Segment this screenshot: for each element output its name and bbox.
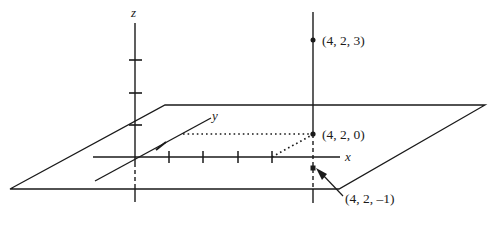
point-label-4-2-3: (4, 2, 3) bbox=[322, 33, 365, 48]
point-marker-4-2-3 bbox=[311, 38, 316, 43]
xy-plane-parallelogram bbox=[10, 105, 485, 189]
point-marker-4-2-neg1 bbox=[311, 166, 316, 171]
figure-container: x y z (4, 2, 3) (4, 2, 0) (4, 2, –1) bbox=[0, 0, 492, 227]
point-marker-4-2-0 bbox=[310, 131, 315, 136]
coordinate-system-figure: x y z (4, 2, 3) (4, 2, 0) (4, 2, –1) bbox=[0, 0, 492, 227]
callout-arrow-shaft bbox=[322, 174, 343, 196]
point-label-4-2-neg1: (4, 2, –1) bbox=[345, 191, 395, 206]
point-label-4-2-0: (4, 2, 0) bbox=[322, 127, 365, 142]
y-axis-tick-1 bbox=[156, 142, 166, 150]
dotted-diagonal-guide bbox=[272, 136, 310, 157]
x-axis-label: x bbox=[344, 149, 351, 164]
z-axis-label: z bbox=[130, 5, 136, 20]
y-axis-line bbox=[95, 118, 211, 181]
y-axis-label: y bbox=[210, 108, 218, 123]
